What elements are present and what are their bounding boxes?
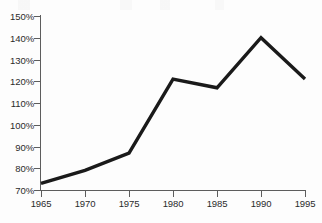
y-axis-tick-label: 150% (10, 11, 34, 22)
y-axis-tick (34, 168, 40, 169)
x-axis-tick-label: 1995 (295, 198, 316, 209)
x-axis-tick-label: 1980 (163, 198, 184, 209)
y-axis-tick-label: 110% (11, 98, 34, 109)
x-axis-tick (261, 191, 262, 197)
x-axis-tick (305, 191, 306, 197)
x-axis-tick (41, 191, 42, 197)
y-axis-tick (34, 103, 40, 104)
y-axis-line (40, 15, 41, 191)
x-axis-tick (173, 191, 174, 197)
x-axis-tick-label: 1975 (119, 198, 140, 209)
y-axis-tick-label: 90% (15, 141, 34, 152)
x-axis-tick-label: 1990 (251, 198, 272, 209)
scan-artifact-band (0, 0, 322, 10)
y-axis-tick-label: 80% (15, 163, 34, 174)
x-axis-tick (129, 191, 130, 197)
y-axis-tick (34, 190, 40, 191)
y-axis-tick-label: 70% (15, 185, 34, 196)
y-axis-tick-label: 140% (10, 32, 34, 43)
y-axis-tick (34, 81, 40, 82)
x-axis-tick (217, 191, 218, 197)
x-axis-tick-label: 1985 (207, 198, 228, 209)
y-axis-tick-label: 100% (10, 119, 34, 130)
x-axis-tick-label: 1970 (75, 198, 96, 209)
y-axis-tick (34, 60, 40, 61)
y-axis-tick (34, 38, 40, 39)
y-axis-tick-label: 130% (10, 54, 34, 65)
y-axis-tick (34, 16, 40, 17)
x-axis-tick-label: 1965 (31, 198, 52, 209)
line-chart: 150%140%130%120%110%100%90%80%70% 196519… (0, 0, 322, 223)
y-axis-tick (34, 125, 40, 126)
y-axis-tick (34, 147, 40, 148)
y-axis-tick-label: 120% (10, 76, 34, 87)
x-axis-tick (85, 191, 86, 197)
